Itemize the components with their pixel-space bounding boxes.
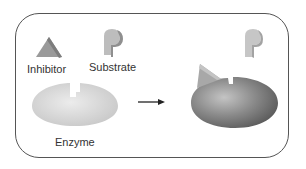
diagram-canvas [0,0,306,169]
reaction-arrow-icon [138,99,165,105]
inhibitor-icon [36,37,62,58]
inhibitor-label: Inhibitor [27,63,66,75]
substrate-icon [104,29,123,57]
enzyme-label: Enzyme [55,136,95,148]
enzyme-free-icon [32,83,118,126]
substrate-label: Substrate [89,61,136,73]
substrate-unbound-icon [245,29,263,58]
